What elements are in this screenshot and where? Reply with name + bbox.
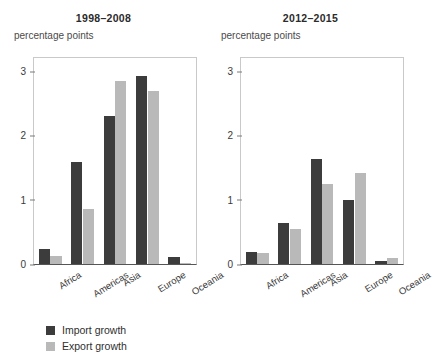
- chart-panel-2012-2015: 2012–2015 percentage points 0123 AfricaA…: [207, 0, 414, 310]
- bar-import: [39, 249, 50, 264]
- bar-export: [322, 184, 333, 264]
- bar-export: [290, 229, 301, 264]
- y-axis-unit-label: percentage points: [14, 30, 94, 41]
- bar-export: [50, 256, 61, 264]
- legend-swatch: [46, 326, 55, 335]
- bar-import: [136, 76, 147, 264]
- x-axis-labels: AfricaAmericasAsiaEuropeOceania: [240, 266, 404, 310]
- chart-legend: Import growthExport growth: [46, 322, 206, 354]
- x-axis-label: Europe: [156, 269, 188, 295]
- bar-group: [103, 58, 126, 264]
- x-axis-label: Africa: [56, 269, 82, 291]
- bar-group: [343, 58, 366, 264]
- bar-export: [387, 258, 398, 264]
- bar-group: [136, 58, 159, 264]
- y-axis-unit-label: percentage points: [221, 30, 301, 41]
- panel-title: 2012–2015: [207, 12, 414, 24]
- y-axis-tick: 2: [219, 130, 241, 141]
- y-axis-tick-label: 3: [219, 65, 233, 76]
- y-axis-tick: 0: [219, 259, 241, 270]
- bar-import: [311, 159, 322, 264]
- bar-export: [257, 253, 268, 264]
- y-axis-tick-label: 0: [219, 259, 233, 270]
- x-axis-label: Europe: [363, 269, 395, 295]
- bar-group: [375, 58, 398, 264]
- legend-swatch: [46, 342, 55, 351]
- x-axis-label: Africa: [263, 269, 289, 291]
- y-axis-tick-label: 1: [219, 194, 233, 205]
- bar-export: [115, 81, 126, 264]
- bar-group: [168, 58, 191, 264]
- y-axis-tick-label: 2: [219, 130, 233, 141]
- bar-export: [148, 91, 159, 264]
- bar-group: [278, 58, 301, 264]
- legend-label: Export growth: [62, 340, 127, 352]
- y-axis-tick: 1: [12, 194, 34, 205]
- bar-import: [246, 252, 257, 264]
- x-axis-label: Oceania: [396, 269, 432, 297]
- legend-item: Export growth: [46, 338, 206, 354]
- y-axis-tick-label: 0: [12, 259, 26, 270]
- bar-group: [310, 58, 333, 264]
- bar-series-container: [34, 58, 196, 264]
- panel-title: 1998–2008: [0, 12, 207, 24]
- y-axis-tick: 2: [12, 130, 34, 141]
- bar-import: [278, 223, 289, 264]
- y-axis-tick: 1: [219, 194, 241, 205]
- plot-area: 0123: [240, 57, 404, 265]
- bar-import: [104, 116, 115, 264]
- y-axis-tick: 0: [12, 259, 34, 270]
- bar-series-container: [241, 58, 403, 264]
- y-axis-tick-label: 3: [12, 65, 26, 76]
- bar-group: [39, 58, 62, 264]
- y-axis-tick-label: 2: [12, 130, 26, 141]
- y-axis-tick: 3: [219, 65, 241, 76]
- bar-export: [83, 209, 94, 264]
- bar-import: [375, 261, 386, 264]
- bar-group: [246, 58, 269, 264]
- bar-export: [180, 263, 191, 264]
- bar-import: [343, 200, 354, 264]
- y-axis-tick-label: 1: [12, 194, 26, 205]
- bar-group: [71, 58, 94, 264]
- chart-panel-1998-2008: 1998–2008 percentage points 0123 AfricaA…: [0, 0, 207, 310]
- legend-label: Import growth: [62, 324, 126, 336]
- bar-import: [71, 162, 82, 264]
- legend-item: Import growth: [46, 322, 206, 338]
- x-axis-labels: AfricaAmericasAsiaEuropeOceania: [33, 266, 197, 310]
- y-axis-tick: 3: [12, 65, 34, 76]
- bar-import: [168, 257, 179, 264]
- bar-export: [355, 173, 366, 264]
- plot-area: 0123: [33, 57, 197, 265]
